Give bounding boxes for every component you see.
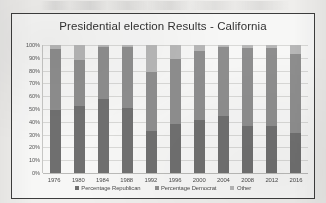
y-axis-tick-label: 50%: [29, 106, 40, 112]
bar-segment: [146, 131, 157, 173]
legend-item[interactable]: Other: [230, 185, 251, 191]
scanned-page-background: Presidential election Results - Californ…: [0, 0, 326, 203]
legend-label: Other: [237, 185, 251, 191]
bar-slot: [139, 45, 163, 173]
y-axis-tick-label: 40%: [29, 119, 40, 125]
bar-segment: [242, 126, 253, 173]
y-axis-tick-label: 100%: [26, 42, 40, 48]
stacked-bar[interactable]: [122, 45, 133, 173]
bar-segment: [218, 116, 229, 173]
bar-slot: [115, 45, 139, 173]
bar-segment: [50, 49, 61, 110]
gridline: 0%: [43, 173, 308, 174]
y-axis-tick-label: 80%: [29, 68, 40, 74]
stacked-bar[interactable]: [98, 45, 109, 173]
y-axis-tick-label: 70%: [29, 80, 40, 86]
bar-slot: [188, 45, 212, 173]
y-axis-tick-label: 30%: [29, 132, 40, 138]
x-axis-tick-label: 2016: [284, 177, 308, 183]
x-axis-tick-label: 1992: [139, 177, 163, 183]
x-axis-tick-label: 2004: [211, 177, 235, 183]
bar-slot: [163, 45, 187, 173]
bar-slot: [212, 45, 236, 173]
legend-item[interactable]: Percentage Republican: [75, 185, 141, 191]
bar-segment: [242, 48, 253, 126]
bar-segment: [98, 47, 109, 100]
bar-segment: [266, 126, 277, 173]
bar-segment: [74, 45, 85, 60]
bar-slot: [260, 45, 284, 173]
legend-swatch-icon: [75, 186, 79, 190]
legend-label: Percentage Republican: [81, 185, 140, 191]
bar-segment: [218, 47, 229, 117]
bar-segment: [98, 99, 109, 173]
legend-item[interactable]: Percentage Democrat: [155, 185, 217, 191]
x-axis-tick-label: 1988: [115, 177, 139, 183]
stacked-bar[interactable]: [170, 45, 181, 173]
legend-swatch-icon: [155, 186, 159, 190]
bar-segment: [170, 45, 181, 59]
bar-slot: [43, 45, 67, 173]
scan-text-smudge: [40, 1, 290, 10]
bar-segment: [74, 60, 85, 106]
bar-segment: [146, 72, 157, 131]
y-axis-tick-label: 0%: [32, 170, 40, 176]
stacked-bar[interactable]: [218, 45, 229, 173]
chart-title: Presidential election Results - Californ…: [12, 20, 314, 32]
bar-slot: [284, 45, 308, 173]
stacked-bar[interactable]: [266, 45, 277, 173]
bar-segment: [194, 51, 205, 119]
x-axis-tick-label: 1976: [42, 177, 66, 183]
stacked-bar[interactable]: [74, 45, 85, 173]
x-axis-tick-label: 1980: [66, 177, 90, 183]
bar-segment: [146, 45, 157, 72]
x-axis-tick-label: 2000: [187, 177, 211, 183]
bar-segment: [290, 54, 301, 133]
bar-segment: [266, 48, 277, 125]
chart-legend: Percentage RepublicanPercentage Democrat…: [12, 185, 314, 191]
bar-segment: [122, 47, 133, 108]
plot-canvas: 100%90%80%70%60%50%40%30%20%10%0%: [42, 45, 308, 173]
stacked-bar[interactable]: [290, 45, 301, 173]
bar-segment: [122, 108, 133, 173]
bar-segment: [194, 120, 205, 173]
bar-segment: [290, 45, 301, 54]
plot-area: 100%90%80%70%60%50%40%30%20%10%0%: [42, 45, 308, 173]
bar-segment: [74, 106, 85, 173]
bar-segment: [290, 133, 301, 173]
y-axis-tick-label: 10%: [29, 157, 40, 163]
x-axis-tick-label: 2012: [260, 177, 284, 183]
y-axis-tick-label: 60%: [29, 93, 40, 99]
x-axis-tick-label: 2008: [236, 177, 260, 183]
stacked-bar[interactable]: [194, 45, 205, 173]
bar-segment: [170, 124, 181, 173]
bar-slot: [91, 45, 115, 173]
y-axis-tick-label: 20%: [29, 144, 40, 150]
x-axis-labels: 1976198019841988199219962000200420082012…: [42, 177, 308, 183]
y-axis-tick-label: 90%: [29, 55, 40, 61]
bar-slot: [67, 45, 91, 173]
bar-segment: [50, 110, 61, 173]
bar-slot: [236, 45, 260, 173]
legend-label: Percentage Democrat: [161, 185, 216, 191]
bar-group: [43, 45, 308, 173]
x-axis-tick-label: 1984: [90, 177, 114, 183]
x-axis-tick-label: 1996: [163, 177, 187, 183]
stacked-bar[interactable]: [242, 45, 253, 173]
bar-segment: [170, 59, 181, 124]
stacked-bar[interactable]: [50, 45, 61, 173]
legend-swatch-icon: [230, 186, 234, 190]
stacked-bar[interactable]: [146, 45, 157, 173]
chart-container: Presidential election Results - Californ…: [11, 13, 315, 199]
